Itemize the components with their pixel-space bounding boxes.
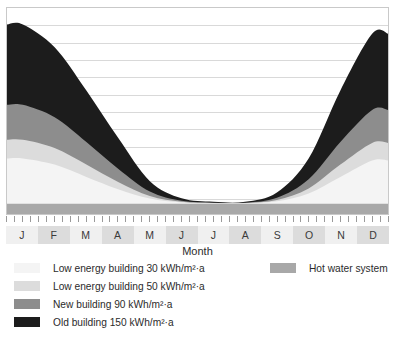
axis-tick	[380, 216, 381, 222]
legend-swatch-icon	[14, 299, 40, 309]
axis-tick	[54, 216, 55, 222]
axis-tick	[364, 216, 365, 222]
axis-tick	[189, 216, 190, 222]
legend-item-building-0[interactable]: Low energy building 30 kWh/m²·a	[14, 259, 259, 277]
axis-tick	[348, 216, 349, 222]
axis-tick	[133, 216, 134, 222]
axis-tick	[30, 216, 31, 222]
axis-tick	[269, 216, 270, 222]
month-label-n-11: N	[325, 226, 357, 244]
legend-label: Low energy building 50 kWh/m²·a	[53, 281, 205, 292]
month-label-a-4: A	[102, 226, 134, 244]
axis-tick	[165, 216, 166, 222]
month-label-o-10: O	[293, 226, 325, 244]
axis-tick	[117, 216, 118, 222]
axis-tick	[253, 216, 254, 222]
axis-tick	[157, 216, 158, 222]
legend-swatch-icon	[14, 317, 40, 327]
axis-tick	[86, 216, 87, 222]
axis-tick	[316, 216, 317, 222]
axis-tick	[332, 216, 333, 222]
axis-tick	[245, 216, 246, 222]
axis-tick	[261, 216, 262, 222]
legend-swatch-icon	[270, 263, 296, 273]
axis-tick	[149, 216, 150, 222]
axis-tick	[6, 216, 7, 222]
stacked-area-series	[7, 8, 388, 214]
legend-label: Hot water system	[309, 263, 388, 274]
axis-tick	[356, 216, 357, 222]
axis-tick	[324, 216, 325, 222]
axis-tick	[173, 216, 174, 222]
axis-tick	[197, 216, 198, 222]
legend-item-hotwater-0[interactable]: Hot water system	[270, 259, 400, 277]
axis-tick	[62, 216, 63, 222]
axis-tick	[205, 216, 206, 222]
month-label-a-8: A	[229, 226, 261, 244]
legend-label: Old building 150 kWh/m²·a	[53, 317, 174, 328]
heating-demand-area-chart: JFMAMJJASOND Month Low energy building 3…	[0, 0, 401, 339]
month-label-s-9: S	[261, 226, 293, 244]
legend-item-building-3[interactable]: Old building 150 kWh/m²·a	[14, 313, 259, 331]
axis-tick	[46, 216, 47, 222]
month-label-j-1: J	[6, 226, 38, 244]
axis-tick	[125, 216, 126, 222]
legend-swatch-icon	[14, 263, 40, 273]
axis-tick	[70, 216, 71, 222]
legend-column-buildings: Low energy building 30 kWh/m²·aLow energ…	[14, 259, 259, 331]
axis-tick	[277, 216, 278, 222]
chart-legend: Low energy building 30 kWh/m²·aLow energ…	[0, 259, 401, 339]
axis-tick	[300, 216, 301, 222]
month-label-f-2: F	[38, 226, 70, 244]
legend-swatch-icon	[14, 281, 40, 291]
axis-tick	[94, 216, 95, 222]
month-label-j-7: J	[198, 226, 230, 244]
x-axis-month-labels: JFMAMJJASOND	[6, 226, 389, 244]
axis-tick	[293, 216, 294, 222]
axis-tick	[213, 216, 214, 222]
legend-column-hot-water: Hot water system	[270, 259, 400, 277]
axis-tick	[38, 216, 39, 222]
x-axis-ticks	[6, 216, 389, 224]
plot-area	[6, 7, 389, 215]
month-label-j-6: J	[166, 226, 198, 244]
x-axis-title: Month	[6, 245, 389, 257]
legend-label: New building 90 kWh/m²·a	[53, 299, 172, 310]
axis-tick	[102, 216, 103, 222]
axis-tick	[388, 216, 389, 222]
axis-tick	[221, 216, 222, 222]
legend-item-building-2[interactable]: New building 90 kWh/m²·a	[14, 295, 259, 313]
axis-tick	[14, 216, 15, 222]
month-label-m-3: M	[70, 226, 102, 244]
axis-tick	[237, 216, 238, 222]
axis-tick	[372, 216, 373, 222]
axis-tick	[340, 216, 341, 222]
axis-tick	[22, 216, 23, 222]
axis-tick	[109, 216, 110, 222]
axis-tick	[229, 216, 230, 222]
legend-item-building-1[interactable]: Low energy building 50 kWh/m²·a	[14, 277, 259, 295]
month-label-d-12: D	[357, 226, 389, 244]
legend-label: Low energy building 30 kWh/m²·a	[53, 263, 205, 274]
axis-tick	[181, 216, 182, 222]
month-label-m-5: M	[134, 226, 166, 244]
axis-tick	[285, 216, 286, 222]
area-series	[7, 204, 388, 214]
axis-tick	[78, 216, 79, 222]
axis-tick	[308, 216, 309, 222]
axis-tick	[141, 216, 142, 222]
